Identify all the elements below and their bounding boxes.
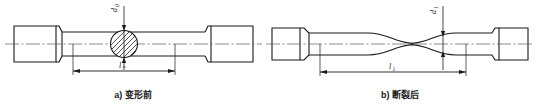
dim-d0-arrow-bottom (122, 58, 126, 64)
panel-b-after-fracture: d 1 l 1 b) 断裂后 (266, 6, 533, 100)
figure-canvas: d 0 l 0 a) 变形前 (0, 0, 535, 106)
specimen-b-top-profile (309, 33, 492, 43)
panel-b-caption: b) 断裂后 (381, 89, 419, 100)
dim-l0-subscript: 0 (123, 65, 126, 71)
dim-d1-subscript: 1 (433, 6, 439, 9)
dim-d0-label: d 0 (110, 4, 120, 12)
panel-a-caption: a) 变形前 (114, 89, 152, 100)
dim-d0-subscript: 0 (114, 4, 120, 7)
dim-d1-label: d 1 (429, 6, 439, 14)
dim-l1-arrow-left (320, 70, 327, 74)
tensile-specimen-figure: d 0 l 0 a) 变形前 (0, 0, 535, 106)
specimen-a-cross-section (108, 28, 141, 60)
dim-l0-arrow-right (168, 69, 175, 73)
dim-l1-subscript: 1 (393, 66, 396, 72)
dim-l1-arrow-right (459, 70, 466, 74)
panel-a-before-deformation: d 0 l 0 a) 变形前 (5, 4, 262, 100)
dim-l1-label: l 1 (389, 62, 396, 72)
dim-l0-arrow-left (73, 69, 80, 73)
dim-d0-arrow-top (122, 25, 126, 31)
specimen-b-bottom-profile (309, 45, 492, 55)
